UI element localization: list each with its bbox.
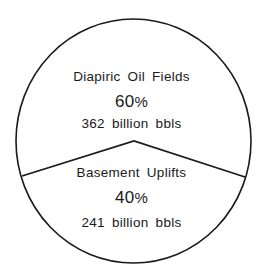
slice-label-percent: 40%	[0, 189, 263, 206]
slice-label-volume: 241 billion bbls	[0, 216, 263, 230]
slice-label-name: Diapiric Oil Fields	[0, 70, 263, 84]
slice-label-volume: 362 billion bbls	[0, 117, 263, 131]
slice-label-percent: 60%	[0, 93, 263, 110]
slice-label-name: Basement Uplifts	[0, 166, 263, 180]
pie-chart	[0, 0, 263, 275]
